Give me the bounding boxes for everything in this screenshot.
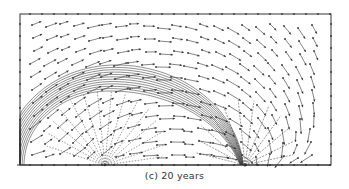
vector-tail-dot — [102, 37, 104, 39]
sink-ray — [245, 101, 254, 165]
vector-tail-dot — [87, 157, 89, 159]
vector-tail-dot — [129, 88, 131, 90]
vector-arrowhead — [210, 142, 212, 144]
vector-arrowhead — [211, 154, 213, 156]
vector-tail-dot — [226, 144, 228, 146]
vector-tail-dot — [197, 62, 199, 64]
contour-line — [20, 70, 243, 165]
vector-tail-dot — [254, 143, 256, 145]
vector-tail-dot — [309, 128, 311, 130]
vector-tail-dot — [211, 64, 213, 66]
vector-arrowhead — [191, 131, 193, 133]
boundary-dot — [19, 23, 21, 25]
vector-tail-dot — [214, 103, 216, 105]
vector-tail-dot — [169, 63, 171, 65]
source-point — [104, 164, 107, 167]
vector-tail-dot — [283, 25, 285, 27]
vector-tail-dot — [73, 25, 75, 27]
vector-arrowhead — [182, 128, 184, 130]
vector-arrowhead — [180, 64, 182, 66]
vector-tail-dot — [313, 50, 315, 52]
vector-tail-dot — [226, 79, 228, 81]
vector-tail-dot — [255, 91, 257, 93]
vector-tail-dot — [31, 154, 33, 156]
vector-tail-dot — [282, 77, 284, 79]
vector-arrowhead — [294, 140, 296, 142]
boundary-dot — [53, 164, 55, 166]
vector-tail-dot — [99, 128, 101, 130]
boundary-dot — [19, 59, 21, 61]
vector-tail-dot — [229, 118, 231, 120]
vector-tail-dot — [158, 40, 160, 42]
vector-tail-dot — [170, 76, 172, 78]
vector-tail-dot — [115, 26, 117, 28]
boundary-dot — [19, 83, 21, 85]
vector-tail-dot — [60, 36, 62, 38]
vector-tail-dot — [61, 49, 63, 51]
vector-arrowhead — [170, 41, 172, 43]
vector-tail-dot — [225, 66, 227, 68]
vector-arrowhead — [173, 118, 175, 120]
vector-arrow — [298, 93, 303, 107]
vector-tail-dot — [297, 157, 299, 159]
vector-tail-dot — [114, 143, 116, 145]
vector-arrowhead — [153, 25, 155, 27]
vector-tail-dot — [298, 105, 300, 107]
vector-tail-dot — [144, 38, 146, 40]
vector-tail-dot — [47, 117, 49, 119]
vector-tail-dot — [157, 27, 159, 29]
vector-arrowhead — [195, 67, 197, 69]
vector-tail-dot — [271, 114, 273, 116]
vector-tail-dot — [103, 50, 105, 52]
vector-arrowhead — [193, 156, 195, 158]
vector-tail-dot — [185, 26, 187, 28]
vector-tail-dot — [129, 153, 131, 155]
boundary-dot — [269, 164, 271, 166]
vector-tail-dot — [129, 23, 131, 25]
vector-tail-dot — [43, 65, 45, 67]
vector-tail-dot — [57, 127, 59, 129]
vector-arrow — [226, 67, 239, 74]
vector-tail-dot — [156, 79, 158, 81]
vector-tail-dot — [254, 78, 256, 80]
vector-tail-dot — [268, 140, 270, 142]
contour-line — [20, 84, 241, 165]
vector-tail-dot — [255, 156, 257, 158]
boundary-dot — [41, 13, 43, 15]
vector-tail-dot — [103, 115, 105, 117]
vector-arrow — [228, 93, 241, 101]
vector-arrowhead — [110, 35, 112, 37]
vector-arrowhead — [128, 100, 130, 102]
vector-tail-dot — [241, 154, 243, 156]
boundary-dot — [19, 47, 21, 49]
vector-tail-dot — [285, 116, 287, 118]
vector-tail-dot — [184, 143, 186, 145]
vector-arrowhead — [155, 51, 157, 53]
vector-tail-dot — [281, 64, 283, 66]
vector-tail-dot — [267, 127, 269, 129]
vector-tail-dot — [197, 127, 199, 129]
vector-tail-dot — [239, 63, 241, 65]
vector-tail-dot — [32, 102, 34, 104]
vector-arrowhead — [98, 25, 100, 27]
vector-tail-dot — [117, 117, 119, 119]
vector-arrowhead — [166, 157, 168, 159]
vector-tail-dot — [101, 24, 103, 26]
vector-tail-dot — [75, 51, 77, 53]
vector-tail-dot — [43, 130, 45, 132]
boundary-dot — [281, 13, 283, 15]
vector-arrow — [296, 67, 303, 80]
vector-tail-dot — [227, 157, 229, 159]
vector-tail-dot — [71, 129, 73, 131]
vector-tail-dot — [87, 27, 89, 29]
vector-tail-dot — [33, 50, 35, 52]
vector-arrowhead — [129, 113, 131, 115]
vector-arrow — [213, 143, 228, 147]
vector-tail-dot — [58, 75, 60, 77]
vector-tail-dot — [270, 36, 272, 38]
vector-tail-dot — [44, 78, 46, 80]
boundary-dot — [317, 164, 319, 166]
vector-tail-dot — [253, 130, 255, 132]
boundary-dot — [330, 47, 332, 49]
vector-tail-dot — [214, 38, 216, 40]
